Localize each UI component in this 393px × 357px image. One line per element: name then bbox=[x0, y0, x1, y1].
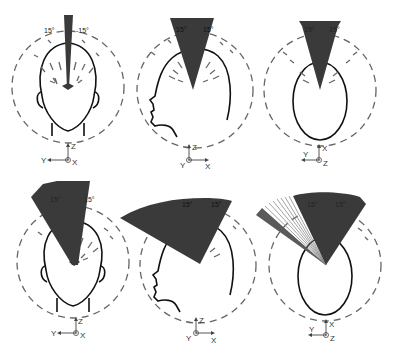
svg-text:X: X bbox=[211, 336, 217, 345]
sector-apex bbox=[62, 83, 74, 90]
angle-label-right: 15° bbox=[203, 26, 214, 33]
sector-narrow bbox=[64, 15, 73, 88]
panel-bottom-top: 15° 15° X Y Z bbox=[256, 192, 381, 343]
angle-label-right: 15° bbox=[211, 201, 222, 208]
panel-top-side: 15° 15° Z X Y bbox=[137, 18, 253, 171]
svg-text:Z: Z bbox=[199, 316, 204, 325]
axes-indicator: Z X Y bbox=[186, 316, 217, 345]
angle-label-left: 15° bbox=[176, 26, 187, 33]
svg-text:X: X bbox=[205, 162, 211, 171]
svg-text:Z: Z bbox=[78, 317, 83, 326]
svg-text:X: X bbox=[80, 331, 86, 340]
angle-label-left: 15° bbox=[307, 201, 318, 208]
angle-ticks bbox=[358, 228, 368, 240]
angle-label-right: -15° bbox=[76, 27, 89, 34]
svg-text:Y: Y bbox=[41, 156, 47, 165]
panel-bottom-front: 15° 15° Z Y X bbox=[17, 181, 129, 340]
axes-indicator: X Y Z bbox=[308, 319, 335, 343]
head-sector-figure: 15° -15° Z Y X bbox=[0, 0, 393, 357]
panel-top-front: 15° -15° Z Y X bbox=[12, 15, 124, 167]
svg-text:X: X bbox=[329, 320, 335, 329]
angle-label-right: 15° bbox=[84, 196, 95, 203]
panel-top-top: 15° -15° X Y Z bbox=[264, 21, 376, 168]
svg-text:Y: Y bbox=[309, 325, 315, 334]
axes-indicator: Z Y X bbox=[51, 317, 86, 340]
axes-indicator: X Y Z bbox=[301, 144, 328, 168]
svg-text:Y: Y bbox=[180, 161, 186, 170]
svg-text:Y: Y bbox=[186, 334, 192, 343]
panel-bottom-side: 15° 15° Z X Y bbox=[120, 198, 256, 345]
angle-label-right: 15° bbox=[335, 201, 346, 208]
svg-text:X: X bbox=[72, 158, 78, 167]
svg-text:Z: Z bbox=[323, 159, 328, 168]
svg-text:Z: Z bbox=[330, 334, 335, 343]
sector-wide bbox=[31, 181, 90, 265]
svg-text:Y: Y bbox=[51, 329, 57, 338]
angle-label-left: 15° bbox=[304, 26, 315, 33]
svg-text:Z: Z bbox=[71, 142, 76, 151]
svg-text:Y: Y bbox=[303, 150, 309, 159]
svg-text:Z: Z bbox=[192, 143, 197, 152]
angle-label-left: 15° bbox=[50, 196, 61, 203]
angle-label-left: 15° bbox=[44, 27, 55, 34]
angle-label-right: -15° bbox=[327, 26, 340, 33]
svg-text:X: X bbox=[322, 144, 328, 153]
axes-indicator: Z Y X bbox=[41, 142, 78, 167]
angle-label-left: 15° bbox=[182, 201, 193, 208]
